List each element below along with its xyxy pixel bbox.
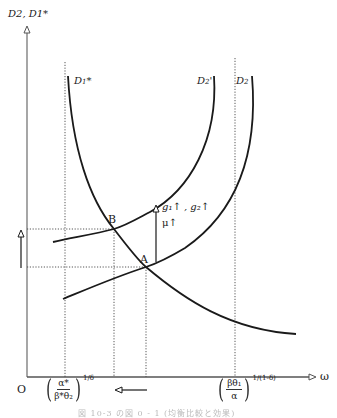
y-axis-label: D2, D1* (8, 9, 48, 19)
open-paren: ( (218, 376, 224, 402)
x-tick-right: ( βθ₁ α ) 1/(1-δ) (216, 376, 276, 402)
point-B-label: B (108, 214, 116, 225)
x-tick-left-fraction: α* β*θ₂ (54, 378, 73, 401)
label-D2: D2 (236, 76, 249, 86)
x-tick-left-numerator: α* (57, 378, 70, 390)
shift-annotation-mu: μ↑ (162, 218, 177, 228)
y-axis-arrowhead (24, 26, 30, 33)
figure-caption: 図 10-3 の図 0 - 1 (均衡比較と効果) (78, 407, 235, 418)
x-axis-label: ω (320, 371, 329, 382)
x-axis-arrowhead (309, 374, 316, 380)
label-D1star: D1* (74, 76, 92, 86)
x-tick-right-fraction: βθ₁ α (226, 378, 242, 401)
label-D2-sub: 2 (244, 78, 248, 86)
left-arrow-head (115, 387, 122, 393)
x-tick-left-exponent: 1/δ (83, 374, 94, 382)
curve-D2prime (53, 76, 214, 242)
curve-D2 (63, 76, 253, 299)
open-paren: ( (46, 376, 52, 402)
label-D2prime-sup: ' (210, 75, 213, 86)
shift-annotation-params: g₁↑ , g₂↑ (162, 202, 209, 212)
label-D1star-sup: * (87, 75, 92, 86)
close-paren: ) (244, 376, 250, 402)
label-D2prime: D2' (197, 76, 212, 86)
up-arrow-head (18, 230, 24, 237)
label-D1star-main: D (74, 75, 82, 86)
close-paren: ) (75, 376, 81, 402)
origin-label: O (17, 384, 26, 395)
x-tick-right-numerator: βθ₁ (226, 378, 242, 390)
label-D2prime-main: D (197, 75, 205, 86)
x-tick-right-exponent: 1/(1-δ) (253, 374, 276, 382)
point-A-label: A (140, 254, 148, 265)
label-D2-main: D (236, 75, 244, 86)
x-tick-left: ( α* β*θ₂ ) 1/δ (44, 376, 94, 402)
x-tick-left-denominator: β*θ₂ (54, 390, 73, 401)
x-tick-right-denominator: α (231, 390, 237, 401)
